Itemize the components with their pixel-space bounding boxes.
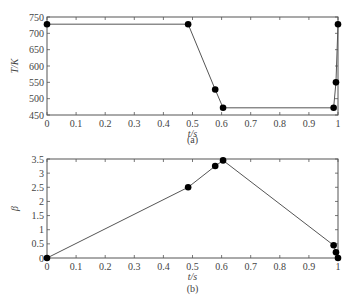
x-tick-label: 0.3 [128, 261, 141, 272]
x-tick-label: 0.9 [303, 261, 316, 272]
y-tick-label: 0 [39, 253, 44, 264]
panel-a: 00.10.20.30.40.50.60.70.80.9145050055060… [9, 12, 341, 147]
x-tick-label: 0.3 [128, 118, 141, 129]
y-tick-label: 650 [29, 44, 44, 55]
x-tick-label: 0.9 [303, 118, 316, 129]
data-point-marker [330, 105, 337, 112]
y-tick-label: 600 [29, 61, 44, 72]
panel-label: (a) [187, 134, 198, 146]
panel-b: 00.10.20.30.40.50.60.70.80.9100.511.522.… [9, 154, 341, 296]
x-tick-label: 0.6 [215, 261, 228, 272]
x-axis-label: t/s [188, 271, 198, 282]
data-line [47, 160, 338, 258]
y-tick-label: 0.5 [32, 238, 45, 249]
data-point-marker [220, 157, 227, 164]
x-tick-label: 0.8 [274, 118, 287, 129]
x-tick-label: 0.1 [70, 118, 83, 129]
y-axis-label: T/K [9, 57, 20, 73]
data-point-marker [335, 255, 342, 262]
plot-frame [47, 159, 338, 258]
x-tick-label: 0.1 [70, 261, 83, 272]
y-tick-label: 1 [39, 224, 44, 235]
data-point-marker [185, 21, 192, 28]
x-tick-label: 0.8 [274, 261, 287, 272]
data-point-marker [185, 184, 192, 191]
y-tick-label: 3 [39, 168, 44, 179]
data-point-marker [212, 86, 219, 93]
data-point-marker [44, 255, 51, 262]
data-point-marker [330, 242, 337, 249]
data-point-marker [333, 249, 340, 256]
data-point-marker [333, 79, 340, 86]
data-point-marker [335, 21, 342, 28]
y-tick-label: 550 [29, 77, 44, 88]
x-tick-label: 0.6 [215, 118, 228, 129]
y-tick-label: 750 [29, 12, 44, 23]
data-point-marker [220, 105, 227, 112]
chart-figure: 00.10.20.30.40.50.60.70.80.9145050055060… [0, 0, 352, 306]
x-tick-label: 0.4 [157, 118, 170, 129]
x-tick-label: 1 [336, 261, 341, 272]
y-tick-label: 2 [39, 196, 44, 207]
x-tick-label: 0.2 [99, 118, 112, 129]
x-tick-label: 0 [45, 118, 50, 129]
y-tick-label: 450 [29, 110, 44, 121]
y-tick-label: 3.5 [32, 154, 45, 165]
data-point-marker [44, 21, 51, 28]
x-tick-label: 1 [336, 118, 341, 129]
plot-frame [47, 17, 338, 115]
panel-label: (b) [187, 283, 199, 295]
y-tick-label: 1.5 [32, 210, 45, 221]
x-tick-label: 0.2 [99, 261, 112, 272]
data-line [47, 24, 338, 108]
y-tick-label: 2.5 [32, 182, 45, 193]
x-tick-label: 0 [45, 261, 50, 272]
x-tick-label: 0.4 [157, 261, 170, 272]
y-axis-label: β [9, 206, 20, 212]
y-tick-label: 500 [29, 93, 44, 104]
y-tick-label: 700 [29, 28, 44, 39]
data-point-marker [212, 163, 219, 170]
x-tick-label: 0.7 [244, 118, 257, 129]
x-tick-label: 0.7 [244, 261, 257, 272]
